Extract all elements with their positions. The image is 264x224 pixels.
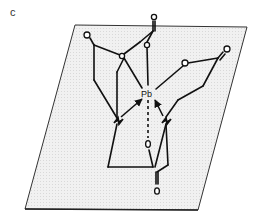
- oxygen-bottom-ring: [146, 141, 151, 148]
- plane-bottom-edge: [25, 209, 198, 210]
- coordination-plane: [25, 25, 247, 210]
- oxygen-top-ring: [144, 42, 149, 47]
- oxygen-top-carbonyl: [151, 14, 156, 19]
- oxygen-right-ring: [182, 60, 188, 66]
- oxygen-upper-left-carbonyl: [84, 32, 90, 38]
- metal-label-pb: Pb: [141, 89, 152, 99]
- pb-complex-diagram: Pb: [0, 0, 264, 224]
- oxygen-right-carbonyl: [224, 46, 230, 52]
- oxygen-upper-left-ring: [119, 53, 124, 58]
- oxygen-bottom-carbonyl: [155, 188, 160, 194]
